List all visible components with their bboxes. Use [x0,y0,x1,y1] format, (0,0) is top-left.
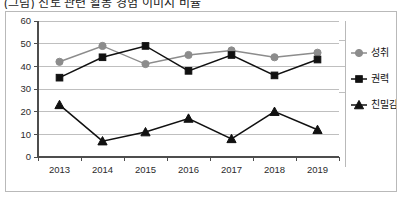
x-axis-tick-label: 2014 [92,164,113,175]
data-point-권력 [185,68,192,75]
data-point-성취 [185,51,192,58]
data-point-권력 [56,74,63,81]
data-point-친밀감 [55,100,64,108]
x-axis-tick-label: 2013 [49,164,70,175]
data-point-친밀감 [184,114,193,122]
data-point-친밀감 [227,134,236,142]
data-point-성취 [271,54,278,61]
data-point-성취 [314,49,321,56]
y-axis-tick-label: 10 [20,129,31,140]
y-axis-tick-label: 60 [20,15,31,26]
legend-marker-성취 [355,49,362,56]
x-axis-tick-label: 2017 [221,164,242,175]
x-axis-tick-label: 2018 [264,164,285,175]
legend-marker-권력 [356,76,363,83]
x-axis-tick-label: 2019 [307,164,328,175]
legend-label-성취: 성취 [371,47,389,58]
y-axis-tick-label: 30 [20,83,31,94]
y-axis-tick-label: 50 [20,38,31,49]
x-axis-tick-label: 2016 [178,164,199,175]
chart-frame: 0102030405060201320142015201620172018201… [5,11,397,192]
y-axis-tick-label: 20 [20,106,31,117]
data-point-친밀감 [313,125,322,133]
legend-item-성취[interactable]: 성취 [351,47,389,58]
data-point-권력 [271,72,278,79]
chart-title-clipped: (그림) 진로 관련 활동 경험 이미지 비율 [4,0,234,9]
data-point-권력 [228,52,235,59]
data-point-성취 [99,42,106,49]
legend-item-권력[interactable]: 권력 [351,73,389,84]
data-point-성취 [142,60,149,67]
y-axis-tick-label: 0 [26,151,31,162]
series-line-친밀감 [60,105,318,141]
legend-label-권력: 권력 [371,73,389,84]
line-chart: 0102030405060201320142015201620172018201… [6,12,396,191]
chart-plot-area: 0102030405060201320142015201620172018201… [6,12,396,191]
legend-item-친밀감[interactable]: 친밀감 [351,99,396,110]
data-point-권력 [99,54,106,61]
data-point-권력 [314,56,321,63]
data-point-성취 [56,58,63,65]
page-title: (그림) 진로 관련 활동 경험 이미지 비율 [4,0,202,9]
legend-label-친밀감: 친밀감 [371,99,396,110]
x-axis-tick-label: 2015 [135,164,156,175]
y-axis-tick-label: 40 [20,61,31,72]
data-point-권력 [142,43,149,50]
